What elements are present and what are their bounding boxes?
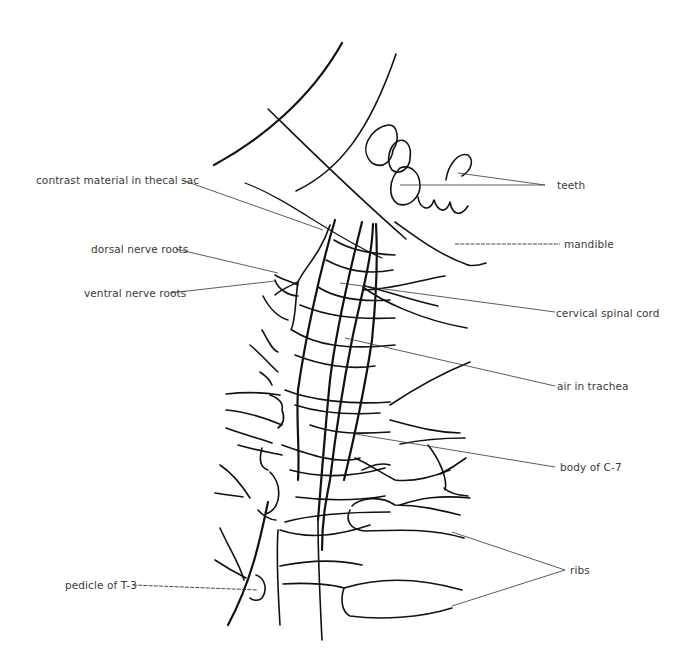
label-cervical-spinal-cord: cervical spinal cord: [556, 307, 660, 319]
label-contrast-material: contrast material in thecal sac: [36, 174, 199, 186]
label-mandible: mandible: [564, 238, 614, 250]
spine-diagram: [0, 0, 686, 657]
label-body-of-c7: body of C-7: [560, 461, 622, 473]
teeth-drawing: [366, 125, 471, 213]
label-teeth: teeth: [557, 179, 585, 191]
spinal-column-lines: [291, 220, 377, 640]
leader-lines: [133, 173, 565, 606]
label-ventral-nerve-roots: ventral nerve roots: [84, 287, 186, 299]
ribs-drawing: [280, 420, 470, 618]
neck-soft-tissue-lines: [363, 276, 470, 405]
lateral-spine-lines: [215, 275, 298, 625]
label-dorsal-nerve-roots: dorsal nerve roots: [91, 243, 188, 255]
label-air-in-trachea: air in trachea: [557, 380, 629, 392]
label-pedicle-of-t3: pedicle of T-3: [65, 579, 137, 591]
label-ribs: ribs: [570, 564, 590, 576]
